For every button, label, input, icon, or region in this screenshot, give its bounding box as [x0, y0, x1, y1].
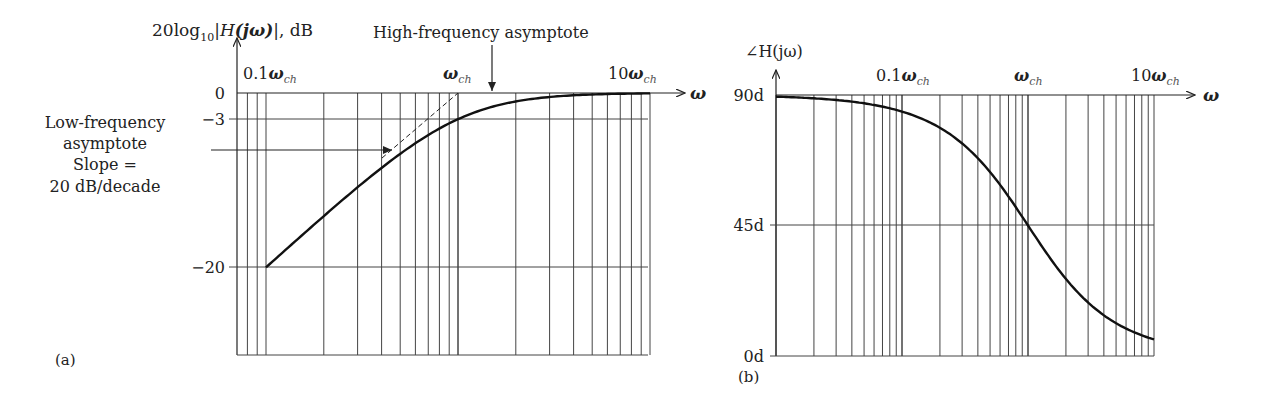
- xtick-10wch-right: 10ωch: [1131, 66, 1180, 88]
- ytick-90d: 90d: [733, 86, 764, 105]
- bode-figure: 0 −3 −20 20log10|H(jω)|, dB 0.1ωch ωch 1…: [0, 0, 1267, 406]
- ytick-0db: 0: [215, 84, 225, 103]
- ytick-45d: 45d: [733, 216, 764, 235]
- magnitude-plot: 0 −3 −20 20log10|H(jω)|, dB 0.1ωch ωch 1…: [45, 20, 707, 369]
- ytick-minus3db: −3: [201, 110, 225, 129]
- phase-y-label: ∠H(jω): [745, 42, 803, 61]
- phase-x-label: ω: [1203, 85, 1219, 105]
- lf-asymptote-label-2: asymptote: [63, 134, 147, 153]
- panel-label-a: (a): [55, 351, 76, 369]
- xtick-wch: ωch: [443, 64, 471, 86]
- magnitude-x-label: ω: [690, 83, 706, 103]
- lf-slope-value: 20 dB/decade: [50, 177, 161, 196]
- lf-slope-label: Slope =: [73, 155, 137, 174]
- xtick-0.1wch: 0.1ωch: [243, 64, 297, 86]
- phase-plot: 90d 45d 0d ∠H(jω) 0.1ωch ωch 10ωch ω (b): [733, 42, 1219, 386]
- ytick-minus20db: −20: [191, 258, 225, 277]
- ytick-0d: 0d: [744, 347, 764, 366]
- panel-label-b: (b): [738, 368, 759, 386]
- phase-curve: [776, 97, 1154, 340]
- magnitude-y-label: 20log10|H(jω)|, dB: [152, 20, 313, 44]
- magnitude-grid: [237, 93, 650, 355]
- xtick-10wch: 10ωch: [608, 64, 657, 86]
- hf-asymptote-label: High-frequency asymptote: [373, 23, 589, 42]
- lf-asymptote-label-1: Low-frequency: [45, 113, 166, 132]
- xtick-0.1wch-right: 0.1ωch: [876, 66, 930, 88]
- xtick-wch-right: ωch: [1014, 66, 1042, 88]
